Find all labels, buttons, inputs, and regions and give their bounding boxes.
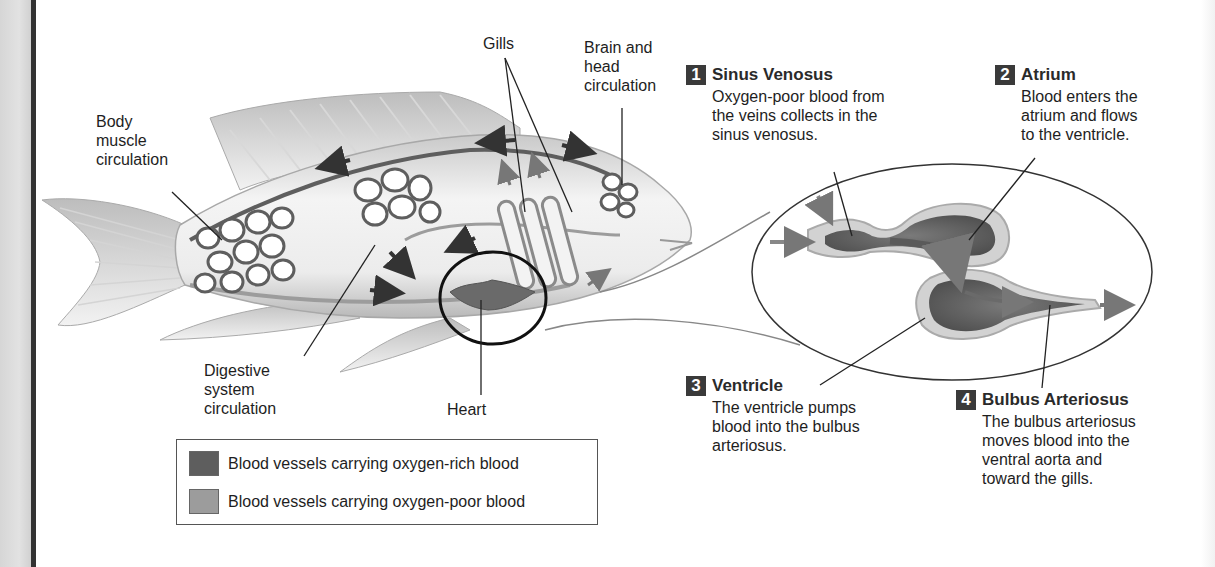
label-body-muscle-circulation: Body muscle circulation [96, 112, 168, 169]
step-atrium: 2 Atrium Blood enters the atrium and flo… [995, 65, 1138, 144]
legend-swatch-oxygen-poor [189, 489, 219, 514]
legend: Blood vessels carrying oxygen-rich blood… [176, 439, 598, 525]
label-heart: Heart [447, 400, 486, 419]
step-number-badge: 1 [686, 65, 706, 85]
step-description: The bulbus arteriosus moves blood into t… [982, 412, 1136, 488]
step-ventricle: 3 Ventricle The ventricle pumps blood in… [686, 376, 860, 455]
step-title: Atrium [1021, 65, 1076, 85]
legend-label: Blood vessels carrying oxygen-poor blood [228, 493, 525, 511]
legend-label: Blood vessels carrying oxygen-rich blood [228, 455, 519, 473]
step-number-badge: 2 [995, 65, 1015, 85]
legend-item-oxygen-rich: Blood vessels carrying oxygen-rich blood [189, 451, 519, 476]
step-description: Oxygen-poor blood from the veins collect… [712, 87, 885, 144]
label-digestive-system-circulation: Digestive system circulation [204, 361, 276, 418]
label-brain-head-circulation: Brain and head circulation [584, 38, 656, 95]
step-title: Ventricle [712, 376, 783, 396]
step-sinus-venosus: 1 Sinus Venosus Oxygen-poor blood from t… [686, 65, 885, 144]
step-title: Sinus Venosus [712, 65, 833, 85]
step-number-badge: 3 [686, 376, 706, 396]
enlarged-heart [770, 196, 1120, 339]
label-gills: Gills [483, 34, 514, 53]
step-bulbus-arteriosus: 4 Bulbus Arteriosus The bulbus arteriosu… [956, 390, 1136, 488]
tail-fin [42, 199, 185, 326]
step-description: Blood enters the atrium and flows to the… [1021, 87, 1138, 144]
step-description: The ventricle pumps blood into the bulbu… [712, 398, 860, 455]
legend-item-oxygen-poor: Blood vessels carrying oxygen-poor blood [189, 489, 525, 514]
step-title: Bulbus Arteriosus [982, 390, 1129, 410]
legend-swatch-oxygen-rich [189, 451, 219, 476]
step-number-badge: 4 [956, 390, 976, 410]
